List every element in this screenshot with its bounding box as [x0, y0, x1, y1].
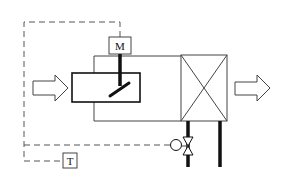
damper: [72, 54, 140, 102]
damper-box: [72, 73, 140, 102]
temperature-sensor: T: [63, 153, 77, 168]
motor-label: M: [115, 40, 125, 52]
duct-bottom: [94, 102, 181, 121]
damper-motor: M: [109, 37, 131, 54]
inlet-air-arrow: [33, 75, 68, 101]
actuator-circle: [171, 140, 182, 151]
outlet-air-arrow: [235, 75, 270, 101]
schematic-diagram: M T: [0, 0, 295, 182]
control-signal-lines: [24, 22, 170, 161]
heat-exchanger: [181, 55, 227, 121]
sensor-label: T: [67, 155, 74, 167]
valve-lower-triangle: [183, 146, 193, 155]
duct-outline: [94, 56, 181, 73]
valve-upper-triangle: [183, 137, 193, 146]
